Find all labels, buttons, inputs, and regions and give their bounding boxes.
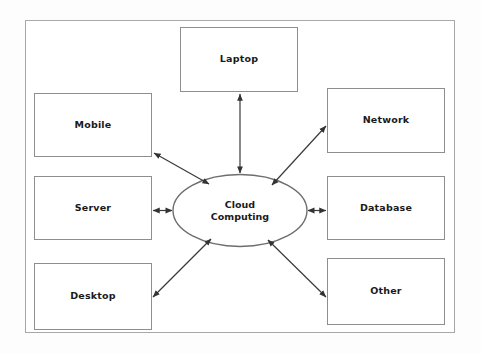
node-network[interactable]: Network <box>327 88 445 153</box>
hub-label: Cloud Computing <box>211 199 269 223</box>
node-other[interactable]: Other <box>327 258 445 325</box>
edge-hub-other[interactable] <box>268 240 326 297</box>
node-laptop[interactable]: Laptop <box>180 27 298 92</box>
edge-hub-desktop[interactable] <box>153 239 211 297</box>
node-desktop[interactable]: Desktop <box>34 263 152 330</box>
node-desktop-label: Desktop <box>70 291 116 302</box>
hub-label-line-1: Cloud <box>211 199 269 211</box>
hub-label-line-2: Computing <box>211 211 269 223</box>
node-mobile-label: Mobile <box>75 120 112 131</box>
node-network-label: Network <box>363 115 410 126</box>
diagram-canvas: Cloud Computing Laptop Mobile Server Des… <box>0 0 481 353</box>
hub-node-cloud-computing[interactable]: Cloud Computing <box>172 174 308 247</box>
node-database-label: Database <box>360 203 412 214</box>
node-other-label: Other <box>370 286 402 297</box>
node-laptop-label: Laptop <box>220 54 258 65</box>
node-database[interactable]: Database <box>327 176 445 240</box>
node-server[interactable]: Server <box>34 176 152 240</box>
node-server-label: Server <box>75 203 112 214</box>
node-mobile[interactable]: Mobile <box>34 93 152 157</box>
